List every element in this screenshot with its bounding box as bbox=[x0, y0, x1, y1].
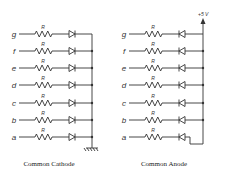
segment-row-g: gR bbox=[12, 24, 92, 39]
supply-label: +5 V bbox=[198, 11, 209, 17]
led-diode-icon bbox=[69, 134, 75, 141]
segment-row-c: cR bbox=[12, 93, 93, 108]
common-cathode-circuit: gRfReRdRcRbRaR Common Cathode bbox=[12, 24, 98, 168]
segment-row-d: dR bbox=[12, 75, 93, 90]
segment-label: a bbox=[12, 133, 17, 142]
resistor-icon bbox=[35, 117, 52, 123]
segment-row-g: gR bbox=[122, 24, 203, 39]
seven-segment-led-diagram: gRfReRdRcRbRaR Common Cathode gRfReRdRcR… bbox=[0, 0, 225, 175]
resistor-label: R bbox=[151, 41, 155, 47]
segment-label: c bbox=[12, 99, 16, 108]
led-diode-reverse-icon bbox=[179, 31, 185, 38]
resistor-icon bbox=[145, 31, 162, 37]
segment-row-b: bR bbox=[122, 110, 204, 125]
segment-label: b bbox=[122, 116, 127, 125]
segment-label: g bbox=[122, 30, 127, 39]
resistor-icon bbox=[145, 82, 162, 88]
resistor-label: R bbox=[151, 75, 155, 81]
resistor-label: R bbox=[151, 24, 155, 30]
supply-arrow-icon bbox=[201, 18, 206, 24]
resistor-label: R bbox=[41, 127, 45, 133]
resistor-icon bbox=[145, 100, 162, 106]
led-diode-icon bbox=[69, 100, 75, 107]
segment-row-c: cR bbox=[122, 93, 204, 108]
anode-bus bbox=[190, 22, 203, 144]
segment-label: a bbox=[122, 133, 127, 142]
resistor-label: R bbox=[41, 110, 45, 116]
segment-label: e bbox=[122, 64, 127, 73]
resistor-label: R bbox=[151, 110, 155, 116]
segment-row-b: bR bbox=[12, 110, 93, 125]
resistor-icon bbox=[145, 65, 162, 71]
segment-label: b bbox=[12, 116, 17, 125]
led-diode-reverse-icon bbox=[179, 100, 185, 107]
led-diode-reverse-icon bbox=[179, 82, 185, 89]
led-diode-icon bbox=[69, 31, 75, 38]
resistor-icon bbox=[35, 82, 52, 88]
resistor-label: R bbox=[151, 58, 155, 64]
led-diode-reverse-icon bbox=[179, 117, 185, 124]
resistor-label: R bbox=[41, 41, 45, 47]
segment-row-a: aR bbox=[122, 127, 190, 144]
caption-common-cathode: Common Cathode bbox=[23, 160, 74, 168]
resistor-label: R bbox=[41, 24, 45, 30]
segment-row-d: dR bbox=[122, 75, 204, 90]
resistor-icon bbox=[145, 134, 162, 140]
led-diode-reverse-icon bbox=[179, 48, 185, 55]
segment-label: g bbox=[12, 30, 17, 39]
common-anode-circuit: gRfReRdRcRbRaR +5 V Common Anode bbox=[122, 11, 209, 168]
resistor-label: R bbox=[41, 93, 45, 99]
resistor-icon bbox=[145, 48, 162, 54]
resistor-label: R bbox=[151, 93, 155, 99]
led-diode-reverse-icon bbox=[179, 134, 185, 141]
caption-common-anode: Common Anode bbox=[141, 160, 187, 168]
segment-label: f bbox=[13, 47, 16, 56]
led-diode-icon bbox=[69, 82, 75, 89]
segment-label: f bbox=[123, 47, 126, 56]
segment-label: e bbox=[12, 64, 17, 73]
resistor-label: R bbox=[151, 127, 155, 133]
led-diode-icon bbox=[69, 117, 75, 124]
resistor-icon bbox=[145, 117, 162, 123]
segment-label: d bbox=[12, 81, 17, 90]
segment-label: d bbox=[122, 81, 127, 90]
resistor-label: R bbox=[41, 58, 45, 64]
resistor-icon bbox=[35, 134, 52, 140]
resistor-icon bbox=[35, 31, 52, 37]
segment-row-e: eR bbox=[122, 58, 204, 73]
segment-row-e: eR bbox=[12, 58, 93, 73]
segment-label: c bbox=[122, 99, 126, 108]
segment-row-f: fR bbox=[123, 41, 204, 56]
led-diode-icon bbox=[69, 48, 75, 55]
led-diode-icon bbox=[69, 65, 75, 72]
resistor-icon bbox=[35, 65, 52, 71]
resistor-icon bbox=[35, 48, 52, 54]
segment-row-f: fR bbox=[13, 41, 93, 56]
segment-row-a: aR bbox=[12, 127, 93, 142]
led-diode-reverse-icon bbox=[179, 65, 185, 72]
resistor-label: R bbox=[41, 75, 45, 81]
ground-icon bbox=[84, 148, 98, 151]
resistor-icon bbox=[35, 100, 52, 106]
